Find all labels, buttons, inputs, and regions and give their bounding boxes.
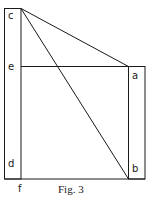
- geometry-diagram: c e d f a b Fig. 3: [0, 0, 149, 201]
- label-b: b: [132, 163, 138, 174]
- figure-caption: Fig. 3: [58, 183, 84, 195]
- label-f: f: [18, 183, 22, 194]
- line-c-a: [21, 9, 129, 67]
- label-a: a: [132, 70, 138, 81]
- line-c-b: [21, 9, 129, 180]
- label-d: d: [8, 158, 14, 169]
- label-e: e: [8, 61, 14, 72]
- label-c: c: [8, 10, 14, 21]
- left-post-rect: [5, 9, 22, 180]
